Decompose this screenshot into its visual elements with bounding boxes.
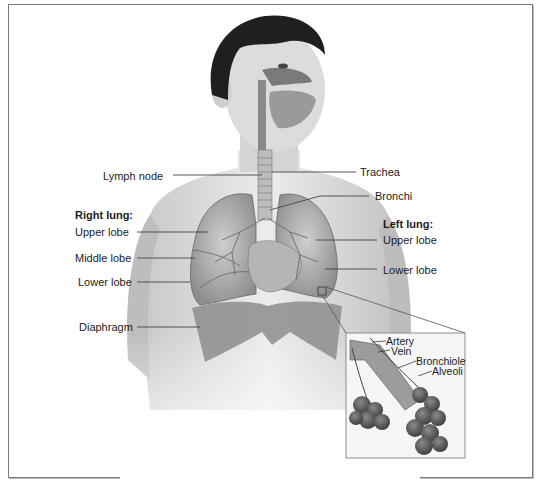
label-bronchi: Bronchi — [375, 190, 412, 202]
label-alveoli: Alveoli — [432, 366, 463, 377]
label-trachea: Trachea — [360, 166, 400, 178]
head — [211, 15, 325, 152]
respiratory-illustration — [0, 0, 542, 485]
label-diaphragm: Diaphragm — [79, 321, 133, 333]
label-right-lower-lobe: Lower lobe — [78, 276, 132, 288]
label-vein: Vein — [391, 346, 411, 357]
label-lymph-node: Lymph node — [103, 170, 163, 182]
label-left-lower-lobe: Lower lobe — [383, 264, 437, 276]
label-right-middle-lobe: Middle lobe — [75, 252, 131, 264]
trachea — [258, 150, 272, 220]
label-left-lung-heading: Left lung: — [383, 218, 433, 230]
label-right-upper-lobe: Upper lobe — [75, 226, 129, 238]
label-right-lung-heading: Right lung: — [75, 209, 133, 221]
label-left-upper-lobe: Upper lobe — [383, 234, 437, 246]
